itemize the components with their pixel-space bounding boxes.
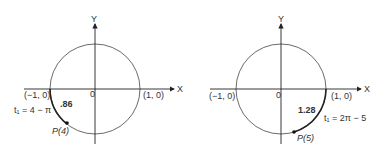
point-label: P(5)	[297, 134, 314, 143]
point-label: P(4)	[52, 127, 69, 136]
pos-point-label: (1, 0)	[143, 91, 164, 100]
point-p4	[65, 121, 69, 125]
neg-point-label: (−1, 0)	[24, 91, 50, 100]
left-diagram	[24, 24, 174, 144]
arc-value-label: .86	[60, 100, 73, 109]
arc-value-label: 1.28	[298, 106, 316, 115]
neg-point-label: (−1, 0)	[209, 92, 235, 101]
origin-label: 0	[90, 90, 95, 99]
x-axis-label: X	[364, 85, 370, 94]
point-p5	[292, 130, 296, 134]
pos-point-label: (1, 0)	[331, 92, 352, 101]
y-axis-label: Y	[91, 15, 97, 24]
origin-label: 0	[276, 91, 281, 100]
t1-label: t₁ = 2π − 5	[324, 114, 366, 123]
y-axis-label: Y	[278, 15, 284, 24]
right-diagram	[210, 24, 361, 144]
t1-label: t₁ = 4 − π	[14, 106, 51, 115]
x-axis-label: X	[177, 85, 183, 94]
